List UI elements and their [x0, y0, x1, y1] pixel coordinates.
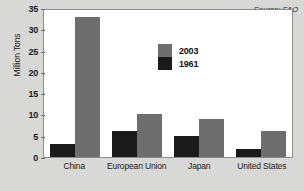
- bar-european-union-2003: [137, 114, 162, 157]
- x-axis-labels: ChinaEuropean UnionJapanUnited States: [43, 161, 293, 171]
- bar-group: [106, 10, 168, 157]
- bar-chart-figure: Million Tons Source: FAO 05101520253035 …: [0, 0, 304, 191]
- plot-area: 05101520253035 2003 1961: [43, 9, 293, 158]
- y-tick-label: 20: [28, 68, 38, 78]
- bar-united-states-2003: [261, 131, 286, 157]
- bar-group-container: [44, 10, 292, 157]
- y-tick-mark: [41, 158, 45, 159]
- y-tick-label: 25: [28, 47, 38, 57]
- bar-china-1961: [50, 144, 75, 157]
- legend-item-2003: 2003: [158, 44, 198, 57]
- bar-group: [168, 10, 230, 157]
- bar-china-2003: [75, 17, 100, 157]
- legend-swatch-2003: [158, 44, 172, 57]
- legend-label-2003: 2003: [179, 46, 198, 56]
- x-axis-label: United States: [231, 161, 294, 171]
- y-axis-title: Million Tons: [12, 0, 22, 115]
- y-tick-label: 15: [28, 89, 38, 99]
- x-axis-label: European Union: [106, 161, 169, 171]
- bar-united-states-1961: [236, 149, 261, 158]
- y-tick-label: 30: [28, 25, 38, 35]
- bar-european-union-1961: [112, 131, 137, 157]
- legend-label-1961: 1961: [179, 59, 198, 69]
- x-axis-label: China: [43, 161, 106, 171]
- bar-group: [230, 10, 292, 157]
- bar-japan-1961: [174, 136, 199, 157]
- chart-legend: 2003 1961: [158, 44, 198, 70]
- bar-group: [44, 10, 106, 157]
- y-tick-label: 35: [28, 4, 38, 14]
- x-axis-label: Japan: [168, 161, 231, 171]
- y-tick-label: 0: [33, 153, 38, 163]
- legend-item-1961: 1961: [158, 57, 198, 70]
- legend-swatch-1961: [158, 57, 172, 70]
- bar-japan-2003: [199, 119, 224, 157]
- y-tick-label: 10: [28, 110, 38, 120]
- y-tick-label: 5: [33, 132, 38, 142]
